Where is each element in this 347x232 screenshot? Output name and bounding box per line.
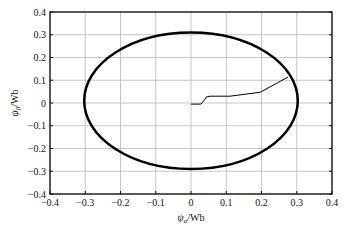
- y-tick-label: 0.2: [34, 52, 47, 63]
- grid-lines: [50, 12, 332, 194]
- flux-trajectory-line: [191, 77, 288, 104]
- y-tick-label: −0.1: [28, 120, 46, 131]
- x-tick-label: −0.3: [76, 197, 94, 208]
- y-tick-label: −0.4: [28, 189, 46, 200]
- x-tick-label: −0.1: [147, 197, 165, 208]
- x-tick-label: 0.4: [326, 197, 339, 208]
- y-tick-label: 0.4: [34, 7, 47, 18]
- y-tick-label: 0: [41, 98, 46, 109]
- x-tick-label: 0.1: [220, 197, 233, 208]
- x-tick-label: 0: [189, 197, 194, 208]
- y-tick-label: −0.2: [28, 143, 46, 154]
- flux-trajectory-chart: −0.4−0.3−0.2−0.100.10.20.30.4 0.40.30.20…: [0, 0, 347, 232]
- y-axis-label: ψβ/Wb: [9, 90, 22, 117]
- x-axis-label: ψα/Wb: [177, 212, 204, 225]
- y-tick-label: −0.3: [28, 166, 46, 177]
- x-tick-label: 0.3: [291, 197, 304, 208]
- x-tick-label: −0.2: [111, 197, 129, 208]
- y-tick-label: 0.3: [34, 29, 47, 40]
- x-tick-label: 0.2: [255, 197, 268, 208]
- y-tick-label: 0.1: [34, 75, 47, 86]
